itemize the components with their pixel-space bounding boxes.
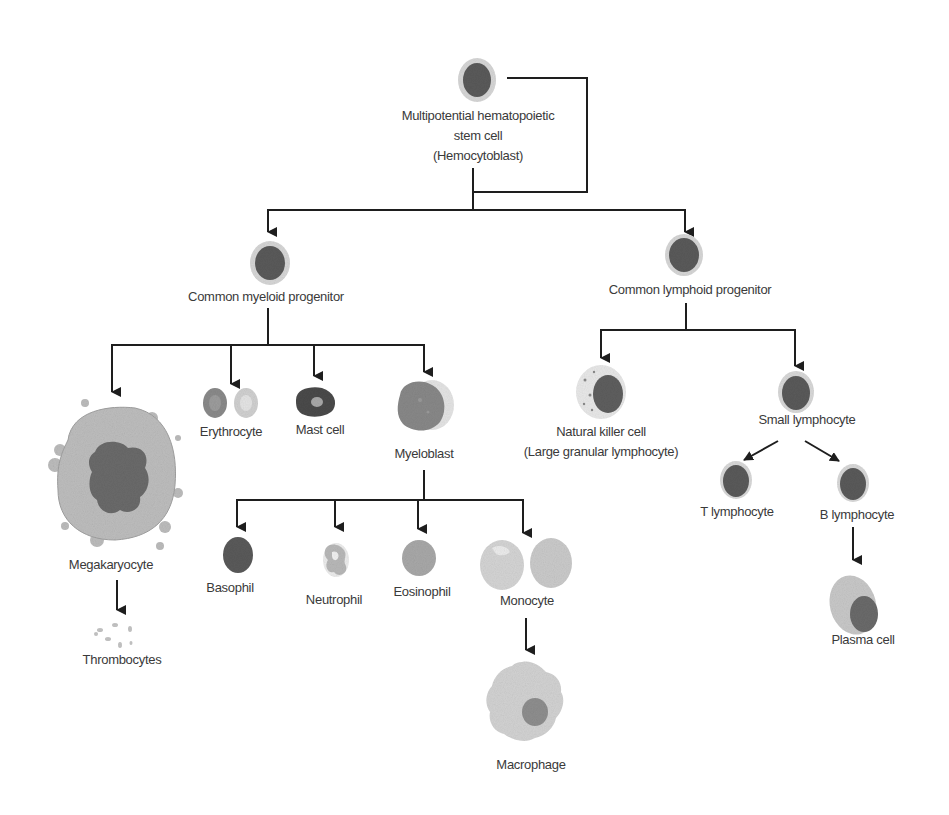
basophil-label: Basophil xyxy=(206,580,254,595)
myeloblast-icon xyxy=(398,380,454,431)
macrophage-label: Macrophage xyxy=(496,757,565,772)
myeloid-progenitor-icon xyxy=(250,241,290,285)
edge-stem-to-lymphoid xyxy=(473,210,685,232)
myeloid-progenitor-label: Common myeloid progenitor xyxy=(188,289,345,304)
small-lymphocyte-label: Small lymphocyte xyxy=(758,412,855,427)
edge-lymphoid-to-small xyxy=(686,330,795,366)
neutrophil-icon xyxy=(323,543,349,577)
b-lymphocyte-icon xyxy=(837,464,869,502)
stem-cell-label-line-2: stem cell xyxy=(454,128,503,143)
edge-small-to-b xyxy=(805,441,839,461)
basophil-icon xyxy=(223,537,253,573)
macrophage-icon xyxy=(486,662,563,741)
stem-cell-icon xyxy=(458,58,496,102)
t-lymphocyte-label: T lymphocyte xyxy=(700,504,774,519)
thrombocytes-label: Thrombocytes xyxy=(83,652,163,667)
mast-cell-label: Mast cell xyxy=(296,422,345,437)
neutrophil-label: Neutrophil xyxy=(306,592,363,607)
thrombocytes-icon xyxy=(94,623,133,648)
nk-cell-label-line-1: Natural killer cell xyxy=(556,424,646,439)
stem-cell-label-line-3: (Hemocytoblast) xyxy=(433,148,523,163)
nk-cell-icon xyxy=(576,365,626,419)
edge-stem-to-myeloid xyxy=(268,210,473,232)
plasma-cell-label: Plasma cell xyxy=(831,632,895,647)
mast-cell-icon xyxy=(296,387,335,416)
plasma-cell-icon xyxy=(823,570,883,640)
nk-cell-label-line-2: (Large granular lymphocyte) xyxy=(524,444,678,459)
myeloblast-label: Myeloblast xyxy=(394,446,454,461)
megakaryocyte-icon xyxy=(48,399,183,550)
lymphoid-progenitor-icon xyxy=(665,234,703,276)
edge-myeloblast-to-monocyte xyxy=(424,500,523,533)
monocyte-label: Monocyte xyxy=(500,593,554,608)
b-lymphocyte-label: B lymphocyte xyxy=(820,507,895,522)
edge-myeloid-to-megakaryocyte xyxy=(112,345,268,392)
t-lymphocyte-icon xyxy=(720,461,752,499)
edge-myeloblast-to-basophil xyxy=(237,500,424,527)
eosinophil-icon xyxy=(402,540,436,576)
edge-small-to-t xyxy=(744,441,778,460)
edge-myeloid-to-myeloblast xyxy=(268,345,424,372)
hematopoiesis-diagram: Multipotential hematopoietic stem cell (… xyxy=(0,0,949,815)
erythrocyte-label: Erythrocyte xyxy=(200,424,263,439)
stem-cell-label-line-1: Multipotential hematopoietic xyxy=(402,108,556,123)
lymphoid-progenitor-label: Common lymphoid progenitor xyxy=(609,282,773,297)
labels: Multipotential hematopoietic stem cell (… xyxy=(69,108,895,772)
monocyte-icon xyxy=(480,538,572,590)
edge-lymphoid-to-nk xyxy=(601,330,686,358)
megakaryocyte-label: Megakaryocyte xyxy=(69,557,153,572)
eosinophil-label: Eosinophil xyxy=(394,584,451,599)
erythrocyte-icon xyxy=(203,388,258,418)
small-lymphocyte-icon xyxy=(778,371,814,413)
